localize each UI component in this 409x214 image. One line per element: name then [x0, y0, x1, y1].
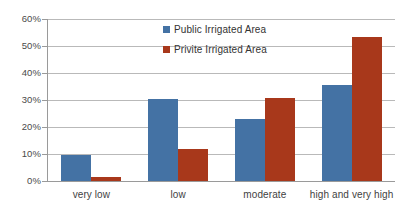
x-axis-category-label: low [135, 188, 222, 201]
y-tick-mark [42, 181, 47, 182]
y-axis-tick-label: 50% [0, 41, 41, 51]
y-tick-mark [42, 73, 47, 74]
bar-group [308, 19, 395, 181]
x-axis-category-label: very low [48, 188, 135, 201]
bar-chart: 60%50%40%30%20%10%0% Public Irrigated Ar… [0, 0, 409, 214]
bar [352, 37, 382, 181]
y-axis-tick-label: 60% [0, 14, 41, 24]
bar [148, 99, 178, 181]
y-tick-mark [42, 46, 47, 47]
bar [61, 155, 91, 181]
y-axis-tick-label: 40% [0, 68, 41, 78]
bar [235, 119, 265, 181]
bar [322, 85, 352, 181]
gridline-0 [48, 181, 395, 182]
y-axis-tick-label: 30% [0, 95, 41, 105]
y-axis-labels: 60%50%40%30%20%10%0% [0, 0, 41, 214]
legend-swatch-private [163, 46, 170, 53]
bar [91, 177, 121, 181]
legend-item[interactable]: Privite Irrigated Area [163, 44, 267, 55]
y-axis-tick-label: 0% [0, 176, 41, 186]
x-axis-category-label: high and very high [308, 188, 395, 201]
y-axis-tick-label: 20% [0, 122, 41, 132]
legend-item-label: Public Irrigated Area [174, 24, 266, 35]
chart-legend: Public Irrigated AreaPrivite Irrigated A… [163, 24, 267, 55]
x-axis-category-label: moderate [222, 188, 309, 201]
legend-swatch-public [163, 26, 170, 33]
x-axis-labels: very lowlowmoderatehigh and very high [48, 188, 395, 208]
legend-item-label: Privite Irrigated Area [174, 44, 267, 55]
y-tick-mark [42, 100, 47, 101]
y-tick-mark [42, 127, 47, 128]
legend-item[interactable]: Public Irrigated Area [163, 24, 267, 35]
bar [265, 98, 295, 181]
y-tick-mark [42, 19, 47, 20]
bar-group [48, 19, 135, 181]
y-axis-tick-label: 10% [0, 149, 41, 159]
y-tick-mark [42, 154, 47, 155]
bar [178, 149, 208, 181]
